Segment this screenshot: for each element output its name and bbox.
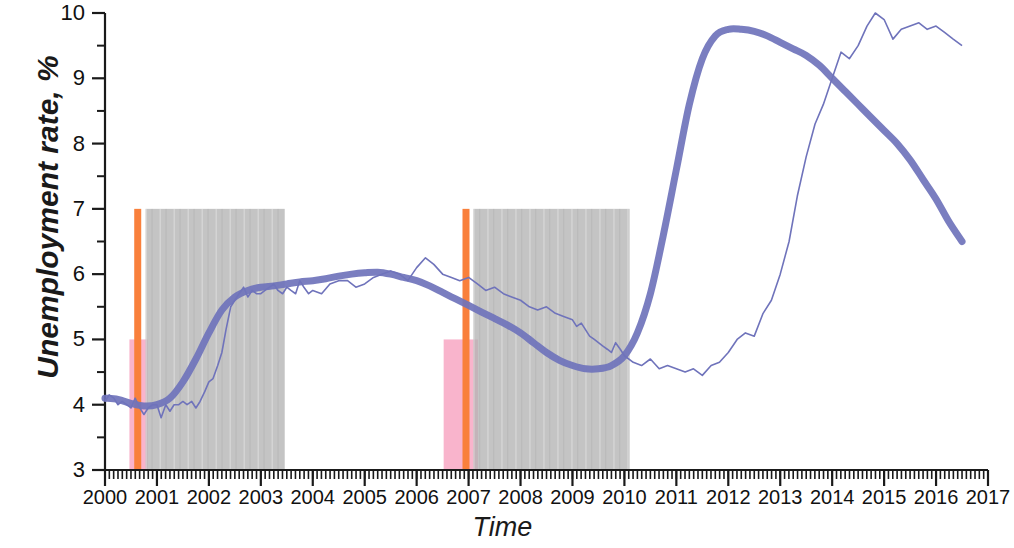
gray-band-texture	[493, 209, 494, 470]
gray-band-texture	[216, 209, 217, 470]
gray-band-texture	[585, 209, 586, 470]
gray-band-texture	[479, 209, 480, 470]
gray-band-texture	[501, 209, 502, 470]
gray-band-texture	[543, 209, 544, 470]
gray-band-texture	[487, 209, 488, 470]
gray-band-texture	[557, 209, 558, 470]
gray-band-texture	[244, 209, 245, 470]
gray-band-texture	[160, 209, 161, 470]
gray-band-texture	[563, 209, 564, 470]
gray-band-texture	[605, 209, 606, 470]
gray-band-texture	[152, 209, 153, 470]
gray-band-texture	[571, 209, 572, 470]
orange-line-2	[462, 209, 469, 470]
gray-band-texture	[194, 209, 195, 470]
gray-band-texture	[272, 209, 273, 470]
gray-band-texture	[599, 209, 600, 470]
gray-band-texture	[222, 209, 223, 470]
gray-band-texture	[591, 209, 592, 470]
gray-band-texture	[507, 209, 508, 470]
gray-band-texture	[180, 209, 181, 470]
gray-band-texture	[174, 209, 175, 470]
gray-band-texture	[166, 209, 167, 470]
gray-band-texture	[146, 209, 147, 470]
gray-band-texture	[250, 209, 251, 470]
orange-line-1	[134, 209, 141, 470]
gray-band-texture	[473, 209, 474, 470]
gray-band-texture	[278, 209, 279, 470]
gray-band-texture	[627, 209, 628, 470]
gray-band-texture	[236, 209, 237, 470]
gray-band-texture	[619, 209, 620, 470]
gray-band-texture	[549, 209, 550, 470]
gray-band-texture	[230, 209, 231, 470]
gray-band-texture	[264, 209, 265, 470]
gray-band-texture	[515, 209, 516, 470]
gray-band-texture	[258, 209, 259, 470]
gray-band-texture	[188, 209, 189, 470]
gray-band-texture	[613, 209, 614, 470]
gray-band-texture	[535, 209, 536, 470]
pink-band-2	[444, 339, 478, 470]
gray-band-texture	[577, 209, 578, 470]
gray-band-texture	[521, 209, 522, 470]
